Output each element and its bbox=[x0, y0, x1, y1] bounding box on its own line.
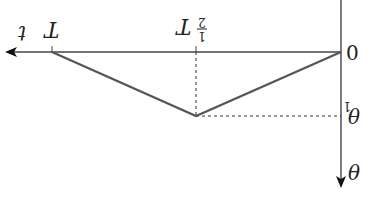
label-T: T bbox=[42, 17, 59, 42]
label-t: t bbox=[17, 21, 26, 45]
svg-text:t: t bbox=[17, 21, 26, 45]
svg-text:T: T bbox=[174, 14, 191, 39]
svg-text:1: 1 bbox=[198, 29, 206, 43]
label-theta: θ bbox=[348, 161, 360, 185]
label-half-T: T 1 2 bbox=[174, 14, 207, 43]
svg-text:2: 2 bbox=[198, 15, 206, 29]
svg-text:T: T bbox=[42, 17, 59, 42]
triangle-wave-diagram: t T T 1 2 0 θ 1 θ bbox=[0, 0, 373, 201]
label-origin: 0 bbox=[346, 41, 359, 65]
diagram-canvas: t T T 1 2 0 θ 1 θ bbox=[0, 0, 373, 201]
label-theta1-subscript: 1 bbox=[343, 99, 351, 113]
